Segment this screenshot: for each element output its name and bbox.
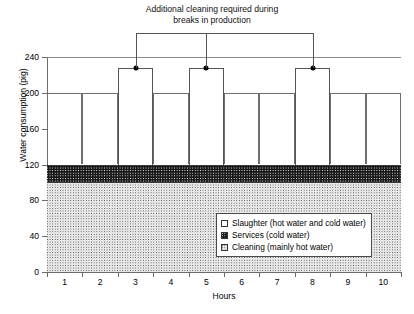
y-tick-240 [42, 57, 47, 58]
legend-item-services: Services (cold water) [221, 229, 366, 241]
y-tick-40 [42, 236, 47, 237]
x-tick-5 [224, 272, 225, 277]
legend-label-services: Services (cold water) [232, 230, 309, 240]
x-tick-10 [401, 272, 402, 277]
bracket-drop-hour-3 [136, 33, 137, 68]
x-tick-1 [82, 272, 83, 277]
cleaning-swatch-icon [221, 244, 228, 251]
band-edge-100 [47, 182, 401, 183]
legend-label-slaughter: Slaughter (hot water and cold water) [232, 218, 366, 228]
x-tick-2 [118, 272, 119, 277]
x-tick-4 [189, 272, 190, 277]
bar-hour-8 [295, 68, 330, 165]
legend-item-slaughter: Slaughter (hot water and cold water) [221, 217, 366, 229]
services-swatch-icon [221, 232, 228, 239]
x-tick-label-9: 9 [346, 277, 351, 287]
y-tick-80 [42, 200, 47, 201]
x-tick-label-5: 5 [204, 277, 209, 287]
x-tick-3 [153, 272, 154, 277]
y-tick-label-80: 80 [29, 195, 39, 205]
bar-hour-3 [118, 68, 153, 165]
bar-hour-7 [259, 93, 294, 165]
chart-legend: Slaughter (hot water and cold water) Ser… [216, 213, 372, 257]
x-tick-label-10: 10 [379, 277, 389, 287]
x-tick-label-6: 6 [239, 277, 244, 287]
x-tick-label-3: 3 [133, 277, 138, 287]
x-tick-6 [259, 272, 260, 277]
bar-hour-2 [82, 93, 117, 165]
x-tick-label-7: 7 [275, 277, 280, 287]
x-tick-9 [366, 272, 367, 277]
x-tick-label-4: 4 [169, 277, 174, 287]
bracket-spine [136, 33, 313, 34]
y-tick-label-160: 160 [25, 124, 39, 134]
y-tick-160 [42, 129, 47, 130]
chart-annotation: Additional cleaning required during brea… [104, 4, 320, 26]
x-tick-label-8: 8 [310, 277, 315, 287]
x-tick-7 [295, 272, 296, 277]
y-tick-label-40: 40 [29, 231, 39, 241]
y-tick-label-240: 240 [25, 52, 39, 62]
y-tick-label-200: 200 [25, 88, 39, 98]
x-tick-label-2: 2 [98, 277, 103, 287]
legend-label-cleaning: Cleaning (mainly hot water) [232, 242, 333, 252]
gridline-240 [47, 57, 401, 58]
band-edge-120 [47, 165, 401, 166]
x-tick-label-1: 1 [62, 277, 67, 287]
bracket-drop-hour-8 [313, 33, 314, 68]
y-tick-label-0: 0 [34, 267, 39, 277]
y-tick-label-120: 120 [25, 160, 39, 170]
slaughter-swatch-icon [221, 220, 228, 227]
y-tick-200 [42, 93, 47, 94]
bar-hour-4 [153, 93, 188, 165]
legend-item-cleaning: Cleaning (mainly hot water) [221, 241, 366, 253]
x-tick-0 [47, 272, 48, 277]
x-axis-title: Hours [47, 291, 401, 301]
bar-hour-5 [189, 68, 224, 165]
water-consumption-chart: Additional cleaning required during brea… [0, 0, 414, 314]
bar-hour-10 [366, 93, 401, 165]
bracket-drop-hour-5 [206, 33, 207, 68]
y-tick-120 [42, 165, 47, 166]
bar-hour-9 [330, 93, 365, 165]
band-services [47, 165, 401, 183]
bar-hour-6 [224, 93, 259, 165]
x-tick-8 [330, 272, 331, 277]
bar-hour-1 [47, 93, 82, 165]
